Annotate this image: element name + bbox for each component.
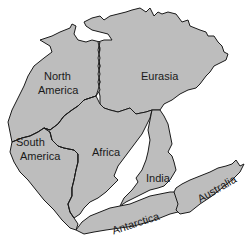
label-south-america-line2: America <box>20 150 61 162</box>
label-india: India <box>146 172 171 184</box>
label-africa: Africa <box>92 146 121 158</box>
landmass-eurasia <box>84 8 228 114</box>
label-south-america-line1: South <box>16 136 45 148</box>
label-north-america-line1: North <box>44 70 71 82</box>
pangaea-map: North America Eurasia South America Afri… <box>0 0 246 240</box>
label-north-america-line2: America <box>38 84 79 96</box>
label-eurasia: Eurasia <box>141 70 179 82</box>
